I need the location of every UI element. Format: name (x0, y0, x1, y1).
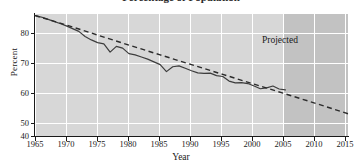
series-line-actual (35, 16, 285, 90)
line-chart-figure: Percentage of Population 80 70 60 50 40 (0, 0, 362, 168)
series-line-projected-trend (35, 16, 348, 114)
series-layer (0, 0, 362, 168)
